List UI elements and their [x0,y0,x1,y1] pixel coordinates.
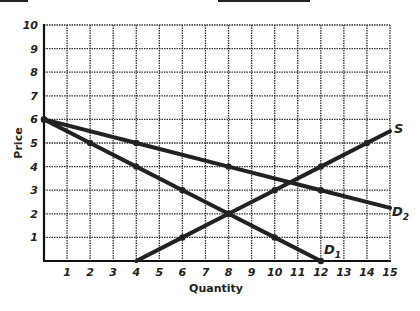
label-S: S [394,121,403,136]
y-tick-label: 9 [30,43,38,56]
y-tick-label: 2 [30,208,38,221]
x-tick-label: 2 [86,266,94,279]
x-tick-label: 14 [359,266,374,279]
y-tick-label: 1 [30,231,38,244]
marker-D1 [225,211,231,217]
x-tick-label: 4 [131,266,140,279]
x-tick-label: 3 [109,266,117,279]
x-tick-label: 15 [382,266,398,279]
marker-D1 [87,140,93,146]
x-tick-label: 6 [179,266,187,279]
y-tick-label: 3 [30,184,38,197]
marker-D1 [179,187,185,193]
supply-demand-chart: 12345678910 123456789101112131415 Price … [0,0,420,311]
label-D2-main: D [392,204,403,219]
marker-D2 [133,140,139,146]
x-tick-label: 11 [290,266,305,279]
marker-D2 [225,163,231,169]
marker-D2 [318,187,324,193]
x-tick-label: 9 [248,266,256,279]
y-tick-label: 5 [30,137,38,150]
label-D2-sub: 2 [403,212,409,222]
line-D2 [44,119,390,207]
y-tick-labels: 12345678910 [23,19,39,244]
marker-D1 [271,234,277,240]
line-S [136,131,390,261]
y-tick-label: 6 [30,113,38,126]
y-axis-title: Price [12,127,25,158]
marker-S [318,163,324,169]
marker-S [179,234,185,240]
marker-D1 [133,163,139,169]
label-D2: D2 [392,204,409,222]
x-tick-label: 13 [336,266,352,279]
y-tick-label: 8 [30,66,38,79]
label-D1: D1 [324,242,341,260]
y-tick-label: 10 [23,19,39,32]
label-D1-sub: 1 [335,250,341,260]
x-tick-label: 1 [63,266,71,279]
x-axis-title: Quantity [189,282,243,295]
x-tick-label: 12 [313,266,329,279]
label-D1-main: D [324,242,335,257]
x-tick-label: 5 [156,266,164,279]
marker-D2 [41,116,47,122]
x-tick-labels: 123456789101112131415 [63,266,398,279]
marker-S [364,140,370,146]
marker-D1 [318,258,324,264]
grid [44,25,390,261]
marker-S [271,187,277,193]
y-tick-label: 7 [30,90,38,103]
x-tick-label: 10 [267,266,283,279]
x-tick-label: 7 [202,266,210,279]
x-tick-label: 8 [225,266,233,279]
y-tick-label: 4 [29,161,38,174]
